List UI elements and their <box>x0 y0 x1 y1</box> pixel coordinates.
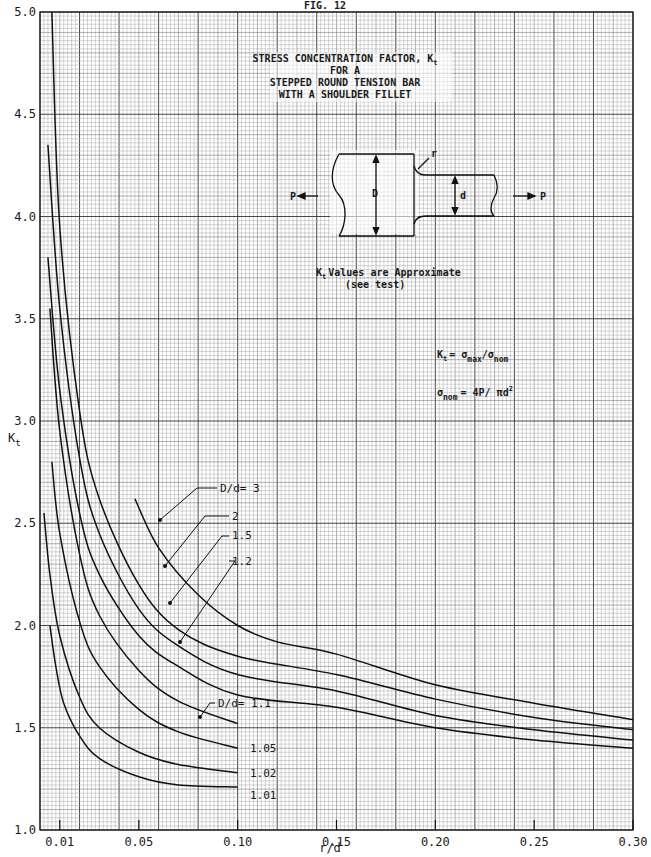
y-tick-label: 4.5 <box>14 107 36 121</box>
title-line-3: STEPPED ROUND TENSION BAR <box>270 77 421 88</box>
leader-arrowhead <box>178 640 182 644</box>
y-tick-label: 4.0 <box>14 210 36 224</box>
x-tick-label: 0.10 <box>223 835 252 849</box>
x-axis-label: r/d <box>319 841 341 855</box>
note-line-2: (see test) <box>345 279 405 290</box>
formula-sigma-lhs-sub: nom <box>443 393 458 402</box>
y-tick-labels: 1.01.52.02.53.03.54.04.55.0 <box>14 5 36 837</box>
note-subscript: t <box>322 273 326 281</box>
leader-line <box>200 703 210 717</box>
x-tick-label: 0.05 <box>124 835 153 849</box>
formula-kt-div: /σ <box>482 349 494 360</box>
series-label: D/d= 3 <box>220 482 260 495</box>
title-line-1-text: STRESS CONCENTRATION FACTOR, K <box>253 53 434 64</box>
y-tick-label: 2.0 <box>14 619 36 633</box>
formula-sigma-sup: 2 <box>509 385 513 393</box>
diagram-label-d: d <box>460 190 466 201</box>
leader-line <box>180 561 235 642</box>
series-label: 1.02 <box>250 767 277 780</box>
formula-kt-lhs-sub: t <box>443 355 447 363</box>
diagram-label-r: r <box>431 148 437 159</box>
chart-title: STRESS CONCENTRATION FACTOR, Kt FOR A ST… <box>253 53 438 100</box>
stepped-bar-diagram <box>298 150 535 236</box>
y-tick-label: 1.0 <box>14 823 36 837</box>
y-tick-label: 2.5 <box>14 516 36 530</box>
stress-concentration-chart: FIG. 12 0.010.050.100.150.200.250.30 1.0… <box>0 0 651 857</box>
formula-kt-eq: = σ <box>449 349 467 360</box>
y-axis-label-sub: t <box>15 438 20 448</box>
title-line-2: FOR A <box>330 65 360 76</box>
title-line-4: WITH A SHOULDER FILLET <box>279 89 411 100</box>
formula-kt-sub-nom: nom <box>494 355 509 364</box>
series-label: D/d= 1.1 <box>218 697 271 710</box>
x-tick-label: 0.01 <box>45 835 74 849</box>
series-label: 1.01 <box>250 789 277 802</box>
series-line-1-01 <box>50 626 238 788</box>
formula-sigma-rhs: = 4P/ πd <box>460 387 508 398</box>
leader-arrowhead <box>168 601 172 605</box>
diagram-label-P-left: P <box>290 191 296 202</box>
figure-label: FIG. 12 <box>304 0 346 11</box>
diagram-label-D: D <box>372 188 378 199</box>
leader-arrowhead <box>163 564 167 568</box>
formula-kt-sub-max: max <box>467 355 482 364</box>
y-axis-label: Kt <box>8 431 21 448</box>
leader-arrowhead <box>158 518 162 522</box>
note-rest: Values are Approximate <box>328 267 460 278</box>
x-tick-labels: 0.010.050.100.150.200.250.30 <box>45 820 647 849</box>
x-tick-label: 0.20 <box>421 835 450 849</box>
y-tick-label: 5.0 <box>14 5 36 19</box>
leader-arrowhead <box>198 715 202 719</box>
series-label: 1.5 <box>232 529 252 542</box>
load-arrowhead-left <box>298 193 305 199</box>
title-subscript: t <box>433 59 437 67</box>
series-label: 1.05 <box>250 742 277 755</box>
x-tick-label: 0.25 <box>520 835 549 849</box>
small-section <box>414 166 494 224</box>
x-tick-label: 0.30 <box>619 835 648 849</box>
y-tick-label: 3.5 <box>14 312 36 326</box>
y-tick-label: 1.5 <box>14 721 36 735</box>
series-group <box>44 12 633 787</box>
approximation-note: KtValues are Approximate (see test) <box>316 267 461 290</box>
break-right <box>491 175 497 216</box>
diagram-label-P-right: P <box>540 191 546 202</box>
y-tick-label: 3.0 <box>14 414 36 428</box>
series-label: 2 <box>232 510 239 523</box>
